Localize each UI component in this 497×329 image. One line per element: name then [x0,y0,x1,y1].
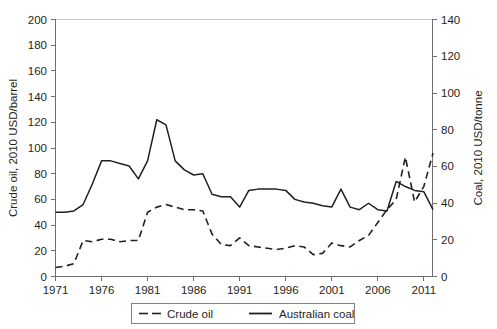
legend-label-crude-oil: Crude oil [167,308,213,320]
y2tick-label-140: 140 [441,14,460,26]
xtick-label-1971: 1971 [43,284,69,296]
chart-legend: Crude oil Australian coal [132,304,355,324]
xtick-label-2011: 2011 [412,284,437,296]
ytick-label-160: 160 [28,65,47,77]
price-comparison-chart: 0 20 40 60 80 100 120 140 160 180 200 0 [0,0,497,329]
legend-label-australian-coal: Australian coal [279,308,354,320]
chart-background [0,0,497,329]
right-axis-title: Coal, 2010 USD/tonne [472,90,484,205]
y2tick-label-20: 20 [441,234,454,246]
y2tick-label-120: 120 [441,50,460,62]
xtick-label-2001: 2001 [319,284,345,296]
y2tick-label-100: 100 [441,87,460,99]
xtick-label-1976: 1976 [89,284,115,296]
ytick-label-180: 180 [28,39,47,51]
ytick-label-0: 0 [41,271,47,283]
ytick-label-100: 100 [28,142,47,154]
ytick-label-120: 120 [28,116,47,128]
y2tick-label-0: 0 [441,271,447,283]
ytick-label-140: 140 [28,91,47,103]
xtick-label-1986: 1986 [181,284,207,296]
ytick-label-200: 200 [28,14,47,26]
xtick-label-2006: 2006 [365,284,391,296]
xtick-label-1981: 1981 [135,284,161,296]
ytick-label-80: 80 [34,168,47,180]
xtick-label-1996: 1996 [273,284,299,296]
y2tick-label-80: 80 [441,124,454,136]
ytick-label-20: 20 [34,245,47,257]
y2tick-label-60: 60 [441,160,454,172]
ytick-label-60: 60 [34,193,47,205]
ytick-label-40: 40 [34,219,47,231]
xtick-label-1991: 1991 [227,284,253,296]
left-axis-title: Crude oil, 2010 USD/barrel [7,79,19,217]
y2tick-label-40: 40 [441,197,454,209]
chart-container: 0 20 40 60 80 100 120 140 160 180 200 0 [0,0,497,329]
x-axis-tick-labels: 1971 1976 1981 1986 1991 1996 2001 2006 … [43,284,437,296]
